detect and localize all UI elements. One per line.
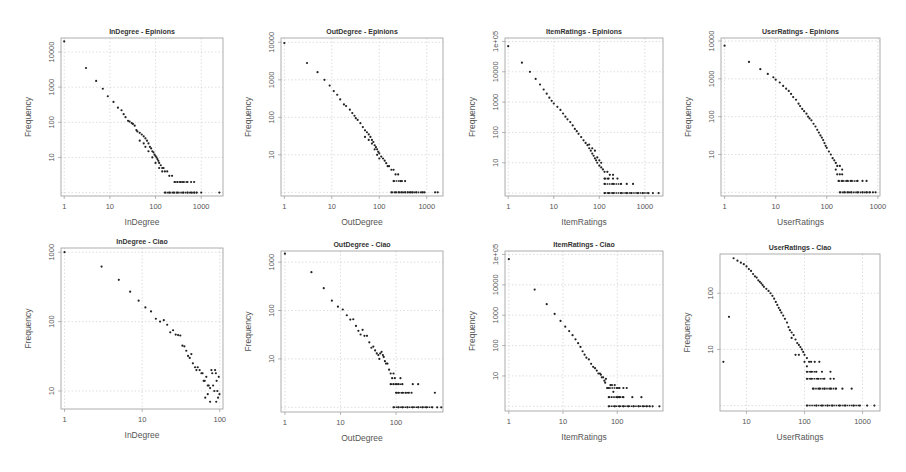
data-points: [63, 40, 220, 193]
y-tick-label: 10: [491, 372, 500, 380]
grid-lines: [505, 38, 663, 196]
x-tick-label: 100: [214, 415, 227, 424]
y-axis-label: Frequency: [23, 96, 33, 137]
x-tick-label: 1000: [870, 202, 887, 211]
x-tick-label: 10: [106, 202, 114, 211]
scatter-panel-4: UserRatings - Epinions110100100010100100…: [683, 28, 886, 227]
plot-title: OutDegree - Epinions: [326, 28, 398, 36]
y-axis-label: Frequency: [23, 308, 33, 349]
plot-title: UserRatings - Ciao: [769, 244, 832, 252]
x-tick-label: 1000: [854, 417, 871, 426]
x-tick-label: 100: [798, 417, 811, 426]
y-tick-label: 10000: [491, 61, 500, 82]
x-tick-label: 1: [282, 202, 286, 211]
x-axis-label: OutDegree: [341, 433, 383, 443]
plot-title: UserRatings - Epinions: [762, 28, 839, 36]
x-tick-label: 1: [283, 418, 287, 427]
plot-frame: [281, 251, 443, 412]
plot-title: InDegree - Ciao: [116, 238, 167, 246]
x-tick-label: 10: [742, 417, 750, 426]
y-tick-label: 10000: [707, 31, 716, 52]
plot-frame: [720, 254, 880, 411]
x-axis-label: ItemRatings: [561, 217, 606, 227]
x-tick-label: 1: [62, 202, 66, 211]
grid-lines: [61, 248, 223, 409]
x-axis-label: ItemRatings: [561, 432, 606, 442]
x-tick-label: 100: [390, 418, 403, 427]
y-tick-label: 100: [707, 110, 716, 123]
x-tick-label: 100: [593, 202, 606, 211]
y-tick-label: 1e+05: [491, 31, 500, 52]
y-tick-label: 1e+05: [491, 244, 500, 265]
plot-frame: [61, 38, 223, 196]
x-tick-label: 1000: [637, 202, 654, 211]
x-tick-label: 10: [328, 202, 336, 211]
y-tick-label: 100: [491, 126, 500, 139]
y-tick-label: 10: [707, 150, 716, 158]
y-tick-label: 10000: [47, 42, 56, 63]
plot-title: ItemRatings - Epinions: [546, 28, 622, 36]
grid-lines: [61, 38, 223, 196]
x-tick-label: 100: [373, 202, 386, 211]
y-tick-label: 100: [267, 111, 276, 124]
x-tick-label: 10: [559, 417, 567, 426]
x-tick-label: 10: [138, 415, 146, 424]
y-tick-label: 1000: [707, 70, 716, 87]
plot-frame: [721, 38, 880, 196]
y-tick-label: 1000: [491, 94, 500, 111]
scatter-panel-3: ItemRatings - Epinions110100100010100100…: [467, 28, 663, 227]
y-axis-label: Frequency: [682, 312, 692, 353]
x-tick-label: 10: [550, 202, 558, 211]
y-tick-label: 10: [491, 159, 500, 167]
scatter-panel-8: UserRatings - Ciao10100100010100UserRati…: [682, 244, 880, 442]
y-tick-label: 1000: [47, 244, 56, 261]
y-tick-label: 100: [47, 116, 56, 129]
y-tick-label: 1000: [491, 307, 500, 324]
scatter-panel-6: OutDegree - Ciao110100101001000OutDegree…: [243, 241, 443, 443]
figure-canvas: InDegree - Epinions110100100010100100010…: [0, 0, 906, 472]
grid-lines: [720, 254, 880, 411]
x-tick-label: 1: [507, 417, 511, 426]
y-tick-label: 10: [47, 153, 56, 161]
x-axis-label: InDegree: [125, 430, 160, 440]
y-axis-label: Frequency: [243, 96, 253, 137]
y-tick-label: 10000: [491, 274, 500, 295]
data-points: [283, 42, 439, 193]
data-points: [508, 258, 661, 407]
y-tick-label: 1000: [267, 254, 276, 271]
scatter-panel-5: InDegree - Ciao110100101001000InDegreeFr…: [23, 238, 226, 440]
y-axis-label: Frequency: [467, 96, 477, 137]
x-tick-label: 1: [506, 202, 510, 211]
grid-lines: [281, 38, 443, 196]
x-tick-label: 1: [723, 202, 727, 211]
x-tick-label: 100: [611, 417, 624, 426]
data-points: [722, 257, 875, 407]
scatter-panel-1: InDegree - Epinions110100100010100100010…: [23, 28, 223, 227]
plot-frame: [505, 38, 663, 196]
x-axis-label: UserRatings: [777, 217, 824, 227]
y-tick-label: 1000: [47, 79, 56, 96]
plot-title: OutDegree - Ciao: [333, 241, 390, 249]
data-points: [284, 253, 442, 409]
x-tick-label: 10: [336, 418, 344, 427]
y-tick-label: 100: [267, 304, 276, 317]
x-axis-label: InDegree: [125, 217, 160, 227]
grid-lines: [721, 38, 880, 196]
plot-frame: [505, 251, 663, 411]
x-tick-label: 10: [772, 202, 780, 211]
plot-title: ItemRatings - Ciao: [553, 241, 614, 249]
data-points: [507, 45, 660, 194]
y-tick-label: 10000: [267, 32, 276, 53]
plot-title: InDegree - Epinions: [109, 28, 175, 36]
scatter-panel-2: OutDegree - Epinions11010010001010010001…: [243, 28, 443, 227]
data-points: [724, 45, 877, 194]
x-tick-label: 1000: [193, 202, 210, 211]
y-axis-label: Frequency: [243, 311, 253, 352]
x-tick-label: 1000: [418, 202, 435, 211]
y-tick-label: 1000: [267, 71, 276, 88]
y-tick-label: 100: [47, 315, 56, 328]
x-tick-label: 100: [821, 202, 834, 211]
scatter-panel-7: ItemRatings - Ciao110100101001000100001e…: [467, 241, 663, 442]
y-axis-label: Frequency: [467, 310, 477, 351]
x-tick-label: 1: [62, 415, 66, 424]
